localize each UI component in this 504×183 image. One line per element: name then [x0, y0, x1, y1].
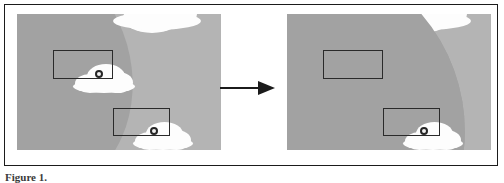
source-image-panel — [17, 14, 221, 150]
bbox-lower — [383, 108, 440, 136]
transformation-arrow — [220, 80, 276, 96]
cloud-puff — [73, 80, 135, 93]
cloud-puff — [133, 137, 193, 150]
figure-root: Figure 1. — [0, 0, 504, 180]
figure-caption: Figure 1. — [5, 171, 425, 180]
cloud-puff — [403, 137, 463, 150]
arrow-head — [258, 81, 275, 95]
figure-caption-label: Figure 1. — [5, 171, 47, 180]
bbox-upper — [53, 50, 113, 79]
arrow-shaft — [220, 87, 262, 89]
bbox-lower — [113, 108, 170, 136]
cloud-puff — [113, 14, 201, 30]
center-marker-lower — [420, 127, 428, 135]
bbox-upper — [323, 50, 383, 79]
center-marker-lower — [150, 127, 158, 135]
center-marker-upper — [95, 70, 103, 78]
cloud-top — [113, 14, 205, 35]
result-image-panel — [287, 14, 491, 150]
